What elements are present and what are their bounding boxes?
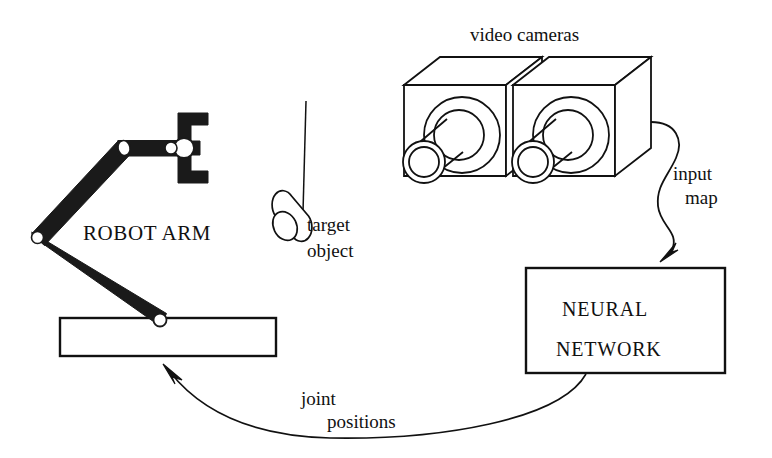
robot-lower-link [32,232,167,327]
input-map-arrow-path [651,122,679,250]
joint-positions-arrowhead-icon [163,364,182,384]
input-map-label-line1: input [673,163,712,184]
neural-network-label-line1: NEURAL [562,298,648,320]
robot-wrist-knob-icon [165,142,177,154]
robot-base-platform [60,318,276,356]
target-string [303,101,306,212]
video-cameras-label: video cameras [470,24,579,45]
robot-shoulder-joint [32,232,44,244]
neural-network-label-line2: NETWORK [556,338,662,360]
joint-positions-label-line2: positions [327,411,396,432]
joint-positions-label-line1: joint [301,388,336,409]
video-camera-right [512,57,651,183]
target-object-label-line1: target [307,214,350,235]
input-map-arrow [651,122,679,262]
robot-arm-label: ROBOT ARM [83,222,211,246]
robot-base-joint [154,314,167,327]
input-map-arrowhead-icon [660,243,678,262]
input-map-label-line2: map [685,187,718,208]
diagram-canvas: video cameras ROBOT ARM target object in… [0,0,772,458]
target-object-label-line2: object [307,240,353,261]
